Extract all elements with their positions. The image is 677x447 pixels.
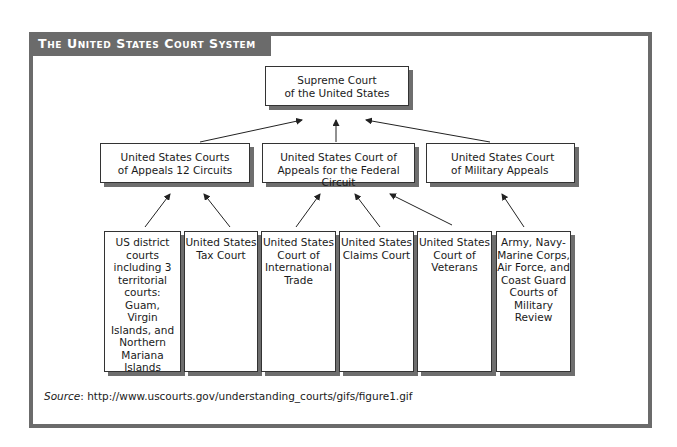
tax-court-box: United StatesTax Court <box>184 231 258 372</box>
box-text-line: Islands <box>105 361 180 374</box>
courts-of-appeals-box: United States Courts of Appeals 12 Circu… <box>100 143 250 183</box>
box-text-line: Court of <box>262 249 335 262</box>
international-trade-box: United StatesCourt ofInternationalTrade <box>261 231 336 372</box>
box-text-line: Claims Court <box>340 249 413 262</box>
supreme-court-box: Supreme Court of the United States <box>265 66 409 106</box>
federal-line1: United States Court of <box>263 151 414 164</box>
box-text-line: Air Force, and <box>497 261 570 274</box>
arrow-trade-to-federal <box>296 194 320 227</box>
box-text-line: Mariana <box>105 349 180 362</box>
source-url: : http://www.uscourts.gov/understanding_… <box>80 390 412 402</box>
box-text-line: Northern <box>105 336 180 349</box>
box-text-line: Coast Guard <box>497 274 570 287</box>
source-citation: Source: http://www.uscourts.gov/understa… <box>44 390 412 402</box>
box-text-line: Trade <box>262 274 335 287</box>
arrow-district-to-appeals <box>145 194 170 227</box>
box-text-line: Virgin <box>105 311 180 324</box>
arrow-military-to-supreme <box>366 120 490 142</box>
box-text-line: US district <box>105 236 180 249</box>
box-text-line: United States <box>418 236 491 249</box>
arrow-review-to-military <box>502 194 524 227</box>
arrow-veterans-to-federal <box>390 194 452 225</box>
source-label: Source <box>44 390 80 402</box>
arrow-claims-to-federal <box>355 194 380 227</box>
claims-court-box: United StatesClaims Court <box>339 231 414 372</box>
district-courts-box: US districtcourtsincluding 3territorialc… <box>104 231 181 372</box>
military-appeals-box: United States Court of Military Appeals <box>426 143 575 183</box>
box-text-line: Court of <box>418 249 491 262</box>
box-text-line: courts <box>105 249 180 262</box>
box-text-line: Review <box>497 311 570 324</box>
box-text-line: Tax Court <box>185 249 257 262</box>
box-text-line: courts: <box>105 286 180 299</box>
box-text-line: United States <box>340 236 413 249</box>
box-text-line: Guam, <box>105 299 180 312</box>
military-line2: of Military Appeals <box>451 164 574 177</box>
box-text-line: territorial <box>105 274 180 287</box>
box-text-line: Islands, and <box>105 324 180 337</box>
box-text-line: United States <box>185 236 257 249</box>
box-text-line: International <box>262 261 335 274</box>
arrow-tax-to-appeals <box>204 194 230 227</box>
box-text-line: Marine Corps, <box>497 249 570 262</box>
box-text-line: Veterans <box>418 261 491 274</box>
military-line1: United States Court <box>451 151 574 164</box>
veterans-court-box: United StatesCourt ofVeterans <box>417 231 492 372</box>
box-text-line: Courts of <box>497 286 570 299</box>
box-text-line: United States <box>262 236 335 249</box>
appeals-line2: of Appeals 12 Circuits <box>101 164 249 177</box>
federal-line2: Appeals for the Federal Circuit <box>263 164 414 189</box>
arrow-appeals-to-supreme <box>200 120 302 142</box>
box-text-line: Military <box>497 299 570 312</box>
federal-circuit-box: United States Court of Appeals for the F… <box>262 143 415 183</box>
supreme-line1: Supreme Court <box>266 74 408 87</box>
military-review-box: Army, Navy-Marine Corps,Air Force, andCo… <box>496 231 571 372</box>
appeals-line1: United States Courts <box>101 151 249 164</box>
box-text-line: including 3 <box>105 261 180 274</box>
box-text-line: Army, Navy- <box>497 236 570 249</box>
supreme-line2: of the United States <box>266 87 408 100</box>
